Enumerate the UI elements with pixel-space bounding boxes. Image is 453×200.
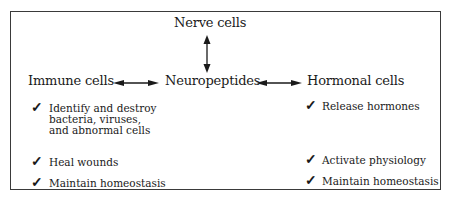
check-icon: ✓	[31, 175, 43, 189]
immune-function-3: Maintain homeostasis	[49, 178, 166, 189]
hormonal-function-3: Maintain homeostasis	[322, 176, 439, 187]
check-icon: ✓	[305, 152, 317, 166]
check-icon: ✓	[305, 173, 317, 187]
check-icon: ✓	[31, 154, 43, 168]
check-icon: ✓	[31, 100, 43, 114]
hormonal-function-2: Activate physiology	[322, 155, 426, 166]
check-icon: ✓	[305, 98, 317, 112]
immune-function-2: Heal wounds	[49, 157, 118, 168]
hormonal-function-1: Release hormones	[322, 101, 420, 112]
immune-function-1: Identify and destroy bacteria, viruses, …	[49, 103, 156, 136]
